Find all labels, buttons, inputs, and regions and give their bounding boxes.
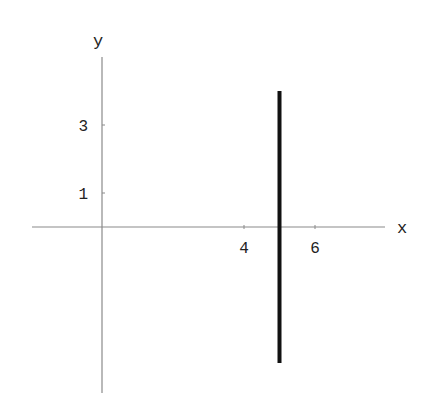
y-tick-label: 3 <box>78 118 88 136</box>
y-tick-label: 1 <box>78 186 88 204</box>
y-ticks: 13 <box>78 118 105 204</box>
x-tick-label: 4 <box>239 240 249 258</box>
chart: 46 13 x y <box>0 0 423 414</box>
y-axis-label: y <box>93 32 103 51</box>
x-tick-label: 6 <box>310 240 320 258</box>
x-axis-label: x <box>397 219 407 238</box>
